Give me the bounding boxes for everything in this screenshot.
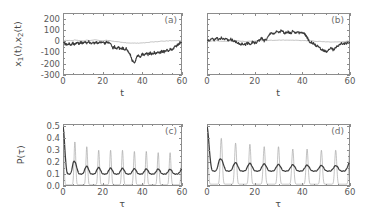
panel-c-ytickmark-minor	[180, 144, 182, 145]
panel-d-xtickmark-minor	[326, 124, 327, 126]
panel-c-xtickmark	[182, 183, 183, 186]
panel-a-xtickmark-minor	[83, 73, 84, 75]
panel-a-ytickmark	[179, 75, 182, 76]
panel-b-xtickmark-minor	[267, 13, 268, 15]
panel-d-xtickmark	[302, 124, 303, 127]
panel-c-xtickmark-minor	[132, 124, 133, 126]
panel-c-xtickmark-minor	[83, 184, 84, 186]
panel-c-ytick-label: 0.1	[46, 170, 60, 179]
panel-d-ytickmark	[347, 174, 350, 175]
panel-b-ytickmark	[347, 30, 350, 31]
panel-d-ytickmark-minor	[348, 180, 350, 181]
panel-c-xlabel: τ	[119, 199, 125, 209]
panel-d-xtickmark	[350, 124, 351, 127]
panel-d-xtickmark-minor	[231, 184, 232, 186]
panel-a-xtickmark-minor	[162, 73, 163, 75]
panel-a-ytickmark	[63, 64, 66, 65]
panel-a-xtickmark-minor	[123, 13, 124, 15]
svg-d-curve-P_thick	[207, 126, 350, 171]
panel-b-xtickmark	[207, 13, 208, 16]
panel-b-ytickmark-minor	[348, 24, 350, 25]
panel-a-ytickmark-minor	[63, 47, 65, 48]
panel-b: (b) 0204060	[207, 13, 350, 75]
panel-a-xtick-label: 40	[137, 77, 148, 86]
panel-b-ytickmark-minor	[207, 47, 209, 48]
figure-canvas: (a) 02040602001000-100-200-300 (b) 02040…	[0, 0, 366, 221]
panel-c-ytick-label: 0.3	[46, 146, 60, 155]
panel-a-xtickmark-minor	[152, 73, 153, 75]
panel-a-ytickmark-minor	[180, 36, 182, 37]
panel-a-ytickmark-minor	[180, 24, 182, 25]
panel-d-ytickmark-minor	[207, 180, 209, 181]
panel-d-tag: (d)	[331, 126, 344, 136]
panel-d-ytickmark-minor	[207, 144, 209, 145]
panel-d-ytickmark-minor	[207, 168, 209, 169]
panel-c-ytick-label: 0.0	[46, 182, 60, 191]
panel-c-ytickmark	[63, 150, 66, 151]
panel-c-xtickmark-minor	[93, 124, 94, 126]
panel-a-ytickmark	[63, 75, 66, 76]
panel-c-ytickmark-minor	[180, 132, 182, 133]
panel-a-ytickmark-minor	[63, 69, 65, 70]
panel-b-tag: (b)	[331, 15, 344, 25]
panel-b-xlabel: t	[276, 88, 280, 98]
panel-a-xtickmark	[142, 72, 143, 75]
panel-c-xtickmark	[182, 124, 183, 127]
panel-a-ytickmark-minor	[63, 36, 65, 37]
panel-b-xtickmark-minor	[279, 73, 280, 75]
panel-a-xtickmark-minor	[73, 73, 74, 75]
panel-d-ytickmark	[207, 162, 210, 163]
panel-d-xtickmark-minor	[231, 124, 232, 126]
panel-d-xtickmark-minor	[314, 184, 315, 186]
panel-b-ytickmark	[207, 30, 210, 31]
panel-c-ytickmark	[179, 126, 182, 127]
panel-d-ytickmark-minor	[207, 132, 209, 133]
panel-d-xtickmark-minor	[338, 184, 339, 186]
panel-b-xtickmark-minor	[338, 73, 339, 75]
panel-b-xtickmark-minor	[290, 73, 291, 75]
panel-c-ytickmark-minor	[63, 180, 65, 181]
panel-d-ytickmark	[347, 138, 350, 139]
panel-b-xtickmark-minor	[314, 73, 315, 75]
panel-b-xtickmark-minor	[243, 73, 244, 75]
panel-a-ytickmark	[63, 30, 66, 31]
panel-c-xtickmark-minor	[162, 184, 163, 186]
panel-b-xtickmark	[302, 72, 303, 75]
panel-d-xtickmark-minor	[267, 184, 268, 186]
panel-d-ytickmark	[347, 162, 350, 163]
panel-a-xtick-label: 60	[177, 77, 188, 86]
panel-c-ytickmark	[179, 150, 182, 151]
panel-d-xtick-label: 0	[204, 188, 209, 197]
panel-b-ytickmark	[207, 19, 210, 20]
panel-d-xtickmark-minor	[290, 124, 291, 126]
panel-d-xtickmark-minor	[314, 124, 315, 126]
panel-c-ytickmark	[179, 138, 182, 139]
panel-d-xtickmark	[255, 124, 256, 127]
panel-c-ytickmark-minor	[63, 168, 65, 169]
panel-c-ytickmark-minor	[180, 180, 182, 181]
panel-d-xlabel: τ	[275, 199, 281, 209]
panel-c-xtickmark-minor	[172, 184, 173, 186]
panel-c-xtickmark	[142, 124, 143, 127]
panel-c-ytickmark-minor	[180, 156, 182, 157]
panel-d-ytickmark	[207, 126, 210, 127]
panel-b-ytickmark-minor	[207, 36, 209, 37]
panel-c-ytickmark	[179, 186, 182, 187]
panel-c-ytickmark-minor	[63, 144, 65, 145]
panel-d-xtick-label: 60	[345, 188, 356, 197]
panel-d-ytickmark	[347, 126, 350, 127]
panel-c-xtickmark-minor	[152, 124, 153, 126]
panel-c-tag: (c)	[165, 126, 177, 136]
panel-b-xtickmark-minor	[243, 13, 244, 15]
panel-b-xtickmark	[350, 72, 351, 75]
panel-b-xtickmark-minor	[338, 13, 339, 15]
panel-a-xtickmark-minor	[132, 73, 133, 75]
panel-a-xtickmark	[103, 72, 104, 75]
panel-d-xtickmark	[255, 183, 256, 186]
panel-d-ytickmark	[207, 150, 210, 151]
panel-c-xtick-label: 20	[97, 188, 108, 197]
panel-b-ytickmark	[207, 64, 210, 65]
panel-c-ytickmark-minor	[63, 132, 65, 133]
panel-d-ytickmark	[207, 186, 210, 187]
panel-b-ytickmark	[347, 64, 350, 65]
